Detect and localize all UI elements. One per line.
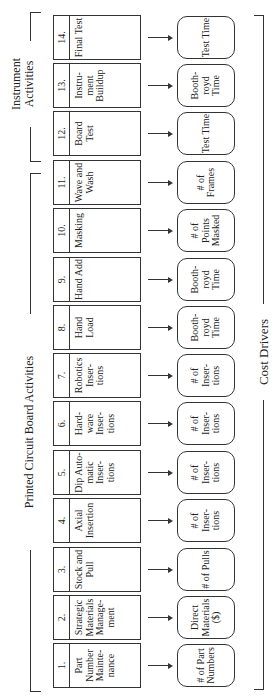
activity-label: Hand Add xyxy=(70,258,85,301)
cost-driver-box: # of Inser- tions xyxy=(177,451,235,494)
activity-label: Hard- ware Inser- tions xyxy=(70,402,116,445)
arrow-icon xyxy=(148,569,170,570)
arrow-icon xyxy=(148,375,170,376)
cost-driver-box: # of Points Masked xyxy=(177,209,235,252)
cost-driver-box: Booth- royd Time xyxy=(177,306,235,349)
arrow-icon xyxy=(148,230,170,231)
activity-number: 1. xyxy=(54,644,70,687)
arrow-icon xyxy=(148,665,170,666)
cost-driver-box: # of Pulls xyxy=(177,548,235,591)
activity-label: Strategic Materials Manage- ment xyxy=(70,596,116,639)
activity-number: 6. xyxy=(54,402,70,445)
activity-label: Wave and Wash xyxy=(70,161,95,204)
cost-driver-box: # of Inser- tions xyxy=(177,499,235,542)
activity-box: 10. Masking xyxy=(53,208,141,253)
cost-driver-box: # of Inser- tions xyxy=(177,354,235,397)
activity-box: 6. Hard- ware Inser- tions xyxy=(53,401,141,446)
activity-box: 13. Instru- ment Buildup xyxy=(53,63,141,108)
activity-box: 5. Dip Auto- matic Inser- tions xyxy=(53,450,141,495)
activity-label: Part Number Mainte- nance xyxy=(70,644,116,687)
activity-number: 13. xyxy=(54,64,70,107)
activity-label: Board Test xyxy=(70,112,95,155)
activity-cost-driver-diagram: Printed Circuit Board Activities Instrum… xyxy=(0,0,280,700)
cost-driver-box: Direct Materials ($) xyxy=(177,596,235,639)
activity-box: 1. Part Number Mainte- nance xyxy=(53,643,141,688)
arrow-icon xyxy=(148,133,170,134)
arrow-icon xyxy=(148,85,170,86)
activity-box: 12. Board Test xyxy=(53,111,141,156)
cost-driver-box: Booth- royd Time xyxy=(177,64,235,107)
activity-box: 8. Hand Load xyxy=(53,305,141,350)
activity-number: 7. xyxy=(54,354,70,397)
activity-label: Masking xyxy=(70,209,85,252)
cost-driver-box: # of Frames xyxy=(177,161,235,204)
activity-box: 2. Strategic Materials Manage- ment xyxy=(53,595,141,640)
activity-number: 14. xyxy=(54,16,70,59)
pcb-activities-label: Printed Circuit Board Activities xyxy=(23,314,36,550)
activity-label: Hand Load xyxy=(70,306,95,349)
activity-number: 10. xyxy=(54,209,70,252)
activity-box: 4. Axial Insertion xyxy=(53,498,141,543)
activity-box: 9. Hand Add xyxy=(53,257,141,302)
instrument-activities-label: Instrument Activities xyxy=(10,41,36,127)
cost-driver-box: # of Inser- tions xyxy=(177,402,235,445)
activity-number: 12. xyxy=(54,112,70,155)
arrow-icon xyxy=(148,520,170,521)
activity-box: 14. Final Test xyxy=(53,15,141,60)
activity-box: 3. Stock and Pull xyxy=(53,547,141,592)
cost-driver-box: Test Time xyxy=(177,16,235,59)
activity-number: 9. xyxy=(54,258,70,301)
activity-label: Final Test xyxy=(70,16,85,59)
activity-number: 5. xyxy=(54,451,70,494)
cost-drivers-label: Cost Drivers xyxy=(257,304,270,400)
activity-number: 2. xyxy=(54,596,70,639)
activity-label: Stock and Pull xyxy=(70,548,95,591)
activity-label: Robotics Inser- tions xyxy=(70,354,106,397)
arrow-icon xyxy=(148,182,170,183)
activity-label: Dip Auto- matic Inser- tions xyxy=(70,451,116,494)
activity-number: 4. xyxy=(54,499,70,542)
arrow-icon xyxy=(148,617,170,618)
arrow-icon xyxy=(148,423,170,424)
arrow-icon xyxy=(148,472,170,473)
activity-box: 11. Wave and Wash xyxy=(53,160,141,205)
cost-driver-box: Booth- royd Time xyxy=(177,258,235,301)
activity-number: 8. xyxy=(54,306,70,349)
activity-number: 11. xyxy=(54,161,70,204)
arrow-icon xyxy=(148,37,170,38)
activity-number: 3. xyxy=(54,548,70,591)
arrow-icon xyxy=(148,327,170,328)
activity-box: 7. Robotics Inser- tions xyxy=(53,353,141,398)
arrow-icon xyxy=(148,279,170,280)
activity-label: Instru- ment Buildup xyxy=(70,64,106,107)
activity-label: Axial Insertion xyxy=(70,499,95,542)
cost-driver-box: # of Part Numbers xyxy=(177,644,235,687)
cost-driver-box: Test Time xyxy=(177,112,235,155)
